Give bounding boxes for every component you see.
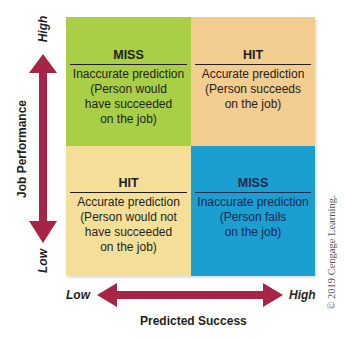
y-axis-high-label: High bbox=[36, 14, 50, 44]
x-axis-high-label: High bbox=[289, 288, 316, 302]
y-axis-low-label: Low bbox=[36, 247, 50, 275]
copyright-notice: © 2019 Cengage Learning. bbox=[326, 188, 337, 318]
vertical-double-arrow-icon bbox=[29, 54, 57, 243]
y-axis-title: Job Performance bbox=[15, 94, 29, 204]
horizontal-double-arrow-icon bbox=[97, 283, 283, 307]
x-axis-title: Predicted Success bbox=[140, 314, 247, 328]
x-axis-low-label: Low bbox=[66, 288, 90, 302]
